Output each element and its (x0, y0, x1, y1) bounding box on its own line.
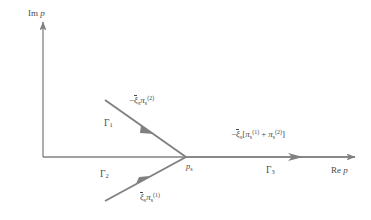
gamma-1-phase-pi-sup: (2) (147, 95, 154, 101)
gamma-3-phase-xi-bar: ξ (236, 130, 240, 139)
imaginary-axis-variable: p (40, 8, 45, 18)
real-axis-variable: p (343, 165, 348, 175)
gamma-3-phase-bracket-close: ] (282, 129, 285, 139)
gamma-2-phase-xi: ξ (140, 192, 144, 202)
gamma-1-phase-xi: ξ (134, 95, 138, 105)
gamma-2-phase-pi-sup: (1) (153, 192, 160, 198)
real-axis-label: Re p (331, 166, 348, 175)
contour-gamma-1-label: Γ1 (104, 119, 113, 129)
contour-gamma-2-label: Γ2 (100, 170, 109, 180)
gamma-1-subscript: 1 (110, 121, 113, 128)
imaginary-axis-label: Im p (28, 9, 45, 18)
gamma-3-phase-operator: + (259, 129, 268, 139)
contour-gamma-3-phase-label: −ξs[πs(1)+πs(2)] (231, 129, 285, 140)
gamma-1-phase-xi-bar: ξ (134, 96, 138, 105)
contour-gamma-1-phase-label: −ξsπs(2) (129, 95, 154, 106)
saddle-point-label: ps (186, 162, 193, 172)
saddle-point-subscript: s (190, 166, 192, 172)
gamma-2-phase-xi-bar: ξ (140, 193, 144, 202)
gamma-3-subscript: 3 (272, 168, 275, 175)
contour-gamma-2-phase-label: ξsπs(1) (140, 192, 160, 203)
real-axis-prefix: Re (331, 165, 343, 175)
imaginary-axis-prefix: Im (28, 8, 40, 18)
contour-vector-graphics (0, 0, 371, 220)
contour-gamma-1-arrowhead (140, 125, 154, 134)
gamma-2-subscript: 2 (106, 172, 109, 179)
complex-plane-figure: Im p Re p ps Γ1 Γ2 Γ3 −ξsπs(2) ξsπs(1) −… (0, 0, 371, 220)
gamma-3-phase-xi: ξ (236, 129, 240, 139)
contour-gamma-3-label: Γ3 (266, 166, 275, 176)
